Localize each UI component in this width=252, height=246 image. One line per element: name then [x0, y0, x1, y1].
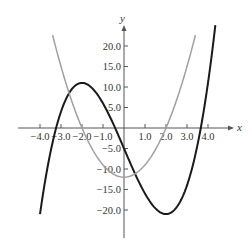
- y-tick-label: −5.0: [102, 143, 121, 154]
- cubic-curve: [40, 25, 215, 214]
- y-tick-label: 10.0: [103, 82, 121, 93]
- x-tick-label: −2.0: [72, 131, 91, 142]
- y-tick-label: −20.0: [97, 205, 121, 216]
- function-plot: −4.0−3.0−2.0−1.01.02.03.04.020.015.010.0…: [0, 0, 252, 246]
- y-axis-arrow-icon: [122, 25, 127, 31]
- x-tick-label: −1.0: [93, 131, 112, 142]
- y-tick-label: −10.0: [97, 164, 121, 175]
- y-tick-label: 20.0: [103, 41, 121, 52]
- curves: [40, 25, 215, 214]
- x-tick-label: 4.0: [201, 131, 214, 142]
- x-tick-label: −4.0: [30, 131, 49, 142]
- y-tick-label: 15.0: [103, 61, 121, 72]
- x-axis-arrow-icon: [228, 126, 234, 131]
- x-tick-label: 3.0: [180, 131, 193, 142]
- y-axis-label: y: [119, 12, 125, 24]
- y-tick-label: −15.0: [97, 184, 121, 195]
- x-axis-label: x: [236, 121, 242, 133]
- x-tick-label: 1.0: [138, 131, 151, 142]
- y-tick-label: 5.0: [108, 102, 121, 113]
